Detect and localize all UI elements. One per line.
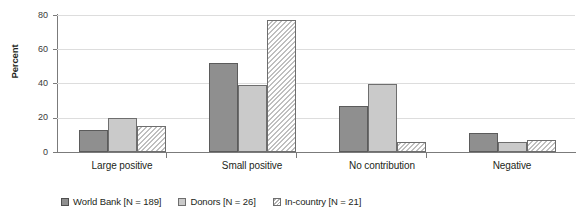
legend-label-world-bank: World Bank [N = 189] [73, 196, 161, 207]
bar [79, 130, 108, 152]
bar [498, 142, 527, 152]
bar [137, 126, 166, 152]
gridline-60 [57, 49, 575, 50]
legend-item-world-bank[interactable]: World Bank [N = 189] [61, 196, 161, 207]
x-axis-line [57, 152, 576, 153]
bar [108, 118, 137, 152]
gridline-40 [57, 83, 575, 84]
y-tick-label-80: 80 [6, 10, 48, 20]
bar-chart: Percent 80 60 40 20 0 Large positiveSmal… [0, 0, 587, 219]
legend-swatch-icon-in-country [273, 198, 281, 206]
y-axis-tick-labels: 80 60 40 20 0 [0, 0, 48, 219]
legend-item-donors[interactable]: Donors [N = 26] [178, 196, 255, 207]
chart-legend: World Bank [N = 189] Donors [N = 26] In-… [61, 196, 361, 207]
bar [267, 20, 296, 152]
bar [469, 133, 498, 152]
y-tick-label-20: 20 [6, 112, 48, 122]
bar [209, 63, 238, 152]
y-tick-label-0: 0 [6, 147, 48, 157]
bar [368, 84, 397, 153]
x-axis-label-large-positive: Large positive [62, 160, 182, 171]
legend-swatch-icon-donors [178, 198, 186, 206]
x-axis-separator-3 [426, 153, 427, 158]
x-axis-separator-2 [296, 153, 297, 158]
bar [397, 142, 426, 152]
legend-item-in-country[interactable]: In-country [N = 21] [273, 196, 362, 207]
x-axis-label-small-positive: Small positive [192, 160, 312, 171]
x-axis-separator-1 [166, 153, 167, 158]
bar [527, 140, 556, 152]
legend-label-donors: Donors [N = 26] [190, 196, 255, 207]
x-axis-label-no-contribution: No contribution [322, 160, 442, 171]
bar [238, 85, 267, 152]
legend-label-in-country: In-country [N = 21] [285, 196, 362, 207]
y-tick-label-60: 60 [6, 44, 48, 54]
gridline-80 [57, 15, 575, 16]
x-axis-label-negative: Negative [452, 160, 572, 171]
bar [339, 106, 368, 152]
legend-swatch-icon-world-bank [61, 198, 69, 206]
y-tick-label-40: 40 [6, 78, 48, 88]
